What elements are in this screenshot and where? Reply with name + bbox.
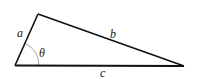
label-c: c xyxy=(100,66,106,79)
label-theta: θ xyxy=(39,46,45,60)
triangle-diagram: a b c θ xyxy=(0,0,199,79)
angle-theta-arc xyxy=(25,43,39,65)
label-b: b xyxy=(110,27,116,41)
label-a: a xyxy=(17,26,23,40)
